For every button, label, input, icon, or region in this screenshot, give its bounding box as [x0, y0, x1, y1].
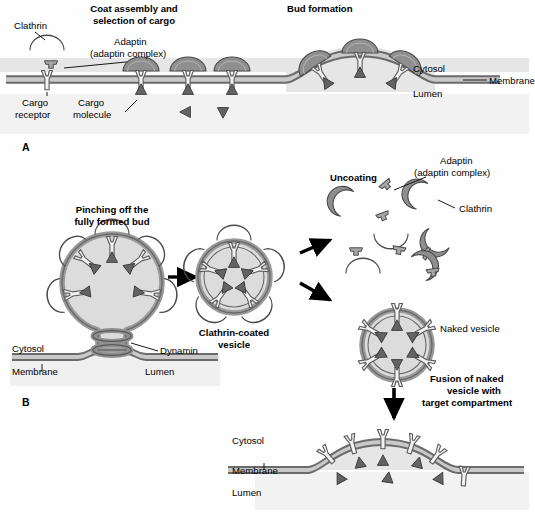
- clathrin-arc-icon: [397, 174, 428, 210]
- lumen-label-target: Lumen: [232, 487, 261, 498]
- clathrin-arc-icon: [374, 234, 408, 249]
- naked-vesicle-label: Naked vesicle: [440, 323, 500, 334]
- adaptin-label-b: Adaptin: [440, 155, 473, 166]
- membrane-label-a: Membrane: [489, 75, 535, 86]
- pinching-title-line1: Pinching off the: [48, 204, 176, 215]
- cargo-molecule-label-line1: Cargo: [78, 97, 104, 108]
- cytosol-label-target: Cytosol: [232, 435, 264, 446]
- adaptin-complex-label-b: (adaptin complex): [414, 167, 490, 178]
- cytosol-label-b: Cytosol: [12, 343, 44, 354]
- lumen-band-target: [255, 472, 529, 510]
- ccv-label-line1: Clathrin-coated: [176, 327, 292, 338]
- adaptin-label-a: Adaptin: [114, 36, 147, 47]
- cargo-triangle-icon: [226, 84, 237, 95]
- cargo-triangle-icon: [135, 84, 146, 95]
- fusion-label-line1: Fusion of naked: [430, 373, 504, 384]
- clathrin-dome-icon: [342, 39, 378, 53]
- panel-a-id: A: [22, 141, 30, 153]
- pinching-title-line2: fully formed bud: [48, 216, 176, 227]
- panel-a-title-line1: Coat assembly and: [60, 3, 208, 14]
- bud-formation-title: Bud formation: [287, 3, 353, 14]
- ccv-label-line2: vesicle: [176, 339, 292, 350]
- adaptin-t-icon: [376, 211, 391, 222]
- cargo-molecule-label-line2: molecule: [73, 109, 111, 120]
- clathrin-label-a: Clathrin: [14, 20, 47, 31]
- adaptin-complex-label-a: (adaptin complex): [90, 48, 166, 59]
- fusion-label-line3: target compartment: [422, 397, 512, 408]
- uncoating-label: Uncoating: [330, 172, 377, 183]
- clathrin-arc-icon: [30, 35, 64, 50]
- clathrin-arc-icon: [217, 225, 251, 240]
- cargo-triangle-icon: [182, 84, 193, 95]
- lumen-label-a: Lumen: [413, 88, 442, 99]
- membrane-label-b: Membrane: [12, 366, 58, 377]
- adaptin-t-icon: [392, 246, 406, 256]
- arrow-icon-to-uncoating: [300, 240, 330, 253]
- adaptin-t-icon: [426, 268, 440, 277]
- panel-b-pinching-bud: [10, 219, 220, 386]
- fusion-label-line2: vesicle with: [447, 385, 501, 396]
- membrane-label-target: Membrane: [232, 465, 278, 476]
- adaptin-t-icon: [350, 248, 363, 255]
- clathrin-arc-icon: [346, 258, 380, 273]
- clathrin-label-b: Clathrin: [459, 203, 492, 214]
- clathrin-coated-vesicle: [179, 225, 330, 329]
- free-clathrin-a: [30, 35, 64, 50]
- cargo-receptor-label-line2: receptor: [15, 109, 50, 120]
- adaptin-t-icon: [379, 178, 394, 192]
- clathrin-arc-icon: [322, 181, 354, 217]
- arrow-icon-to-naked-vesicle: [300, 283, 330, 300]
- cargo-receptor-label-line1: Cargo: [22, 97, 48, 108]
- cytosol-label-a: Cytosol: [413, 63, 445, 74]
- cytosol-band-a: [0, 58, 529, 72]
- panel-b-id: B: [22, 396, 30, 408]
- uncoating-scatter: [322, 174, 455, 281]
- lumen-label-b: Lumen: [145, 366, 174, 377]
- panel-a-title-line2: selection of cargo: [60, 15, 208, 26]
